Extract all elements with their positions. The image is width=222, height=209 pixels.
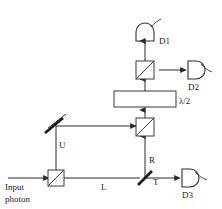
transmitted-path-label: T: [153, 177, 159, 187]
reflected-path-label: R: [149, 155, 155, 165]
detector-d3[interactable]: [182, 169, 207, 187]
detector-d2-label: D2: [188, 82, 199, 92]
input-beam-splitter[interactable]: [48, 170, 64, 186]
input-photon-label-line2: photon: [5, 194, 31, 204]
lower-path-label: L: [101, 182, 107, 192]
detector-d2[interactable]: [188, 61, 212, 79]
combining-beam-splitter[interactable]: [136, 118, 154, 136]
input-photon-label-line1: Input: [5, 182, 24, 192]
detector-d3-label: D3: [182, 190, 193, 200]
upper-path-label: U: [59, 140, 66, 150]
detector-d1[interactable]: [136, 19, 161, 41]
diagram-canvas: D1 D2 D3 λ/2 U L R T Input photon: [0, 0, 222, 209]
half-wave-plate-label: λ/2: [179, 96, 190, 106]
detector-d1-label: D1: [159, 36, 170, 46]
analyzer-beam-splitter[interactable]: [136, 61, 154, 79]
half-wave-plate[interactable]: [114, 91, 176, 107]
optics-diagram-figure: D1 D2 D3 λ/2 U L R T Input photon: [0, 0, 222, 209]
